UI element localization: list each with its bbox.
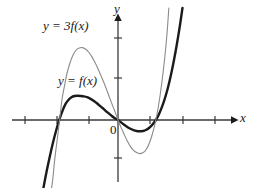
curve-label-scaled: y = 3f(x) bbox=[43, 19, 89, 32]
plot-canvas bbox=[0, 0, 263, 188]
curve-label-base-text: y = f(x) bbox=[58, 73, 97, 88]
curve-label-scaled-text: y = 3f(x) bbox=[43, 18, 89, 33]
x-axis-label: x bbox=[240, 111, 246, 124]
curve-label-base: y = f(x) bbox=[58, 74, 97, 87]
origin-label: 0 bbox=[110, 123, 117, 136]
curve-group bbox=[41, 8, 182, 188]
graph-figure: y = 3f(x) y = f(x) y x 0 bbox=[0, 0, 263, 188]
y-axis-label: y bbox=[114, 2, 120, 15]
curve-scaled bbox=[50, 8, 168, 188]
